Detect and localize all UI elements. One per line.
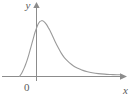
origin-label: 0 (24, 81, 30, 93)
figure-canvas: y x 0 (0, 0, 135, 102)
density-curve (19, 21, 120, 77)
y-axis-arrowhead (33, 2, 39, 8)
y-axis (33, 2, 39, 81)
y-axis-label: y (25, 0, 31, 11)
x-axis-arrowhead (120, 73, 127, 79)
math-figure: y x 0 (0, 0, 135, 102)
x-axis-label: x (122, 84, 128, 96)
